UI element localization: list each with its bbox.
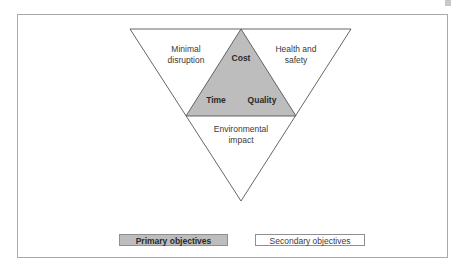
label-quality: Quality bbox=[237, 95, 287, 106]
label-line: Health and bbox=[260, 44, 332, 55]
label-minimal-disruption: Minimal disruption bbox=[150, 44, 222, 66]
label-time: Time bbox=[198, 95, 234, 106]
label-line: impact bbox=[199, 135, 283, 146]
legend-primary-objectives: Primary objectives bbox=[119, 234, 228, 246]
label-environmental-impact: Environmental impact bbox=[199, 124, 283, 146]
label-line: safety bbox=[260, 55, 332, 66]
label-health-safety: Health and safety bbox=[260, 44, 332, 66]
label-cost: Cost bbox=[221, 53, 261, 64]
legend-secondary-objectives: Secondary objectives bbox=[255, 234, 365, 246]
label-line: disruption bbox=[150, 55, 222, 66]
label-line: Minimal bbox=[150, 44, 222, 55]
label-line: Environmental bbox=[199, 124, 283, 135]
